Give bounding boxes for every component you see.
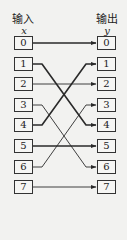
input-box-1: 1	[14, 57, 33, 71]
input-box-0: 0	[14, 36, 33, 50]
input-box-6: 6	[14, 160, 33, 174]
output-box-5: 5	[97, 139, 116, 153]
wire-4-to-1	[33, 64, 96, 125]
wire-6-to-3	[33, 105, 96, 167]
output-box-0: 0	[97, 36, 116, 50]
input-box-2: 2	[14, 77, 33, 91]
input-box-4: 4	[14, 118, 33, 132]
output-box-4: 4	[97, 118, 116, 132]
output-box-7: 7	[97, 180, 116, 194]
output-box-6: 6	[97, 160, 116, 174]
input-box-3: 3	[14, 98, 33, 112]
output-box-2: 2	[97, 77, 116, 91]
output-box-1: 1	[97, 57, 116, 71]
output-box-3: 3	[97, 98, 116, 112]
input-box-7: 7	[14, 180, 33, 194]
input-box-5: 5	[14, 139, 33, 153]
